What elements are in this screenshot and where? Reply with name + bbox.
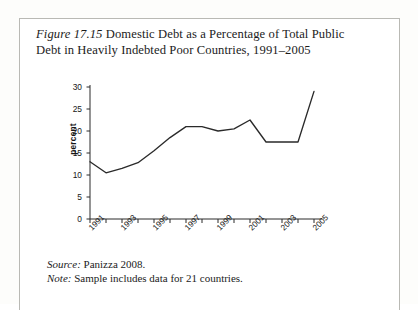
- y-axis-tick-label: 15: [60, 148, 82, 158]
- y-axis-tick-label: 5: [60, 192, 82, 202]
- y-axis-tick-label: 10: [60, 170, 82, 180]
- source-line: Source: Panizza 2008.: [47, 258, 243, 272]
- note-label: Note:: [47, 272, 71, 284]
- y-axis-tick-label: 0: [60, 214, 82, 224]
- figure-notes: Source: Panizza 2008. Note: Sample inclu…: [47, 258, 243, 285]
- note-text: Sample includes data for 21 countries.: [71, 272, 242, 284]
- note-line: Note: Sample includes data for 21 countr…: [47, 272, 243, 286]
- y-axis-tick-label: 20: [60, 126, 82, 136]
- source-label: Source:: [47, 258, 81, 270]
- data-series-line: [90, 91, 314, 172]
- source-text: Panizza 2008.: [81, 258, 145, 270]
- y-axis-tick-label: 30: [60, 82, 82, 92]
- y-axis-tick-label: 25: [60, 104, 82, 114]
